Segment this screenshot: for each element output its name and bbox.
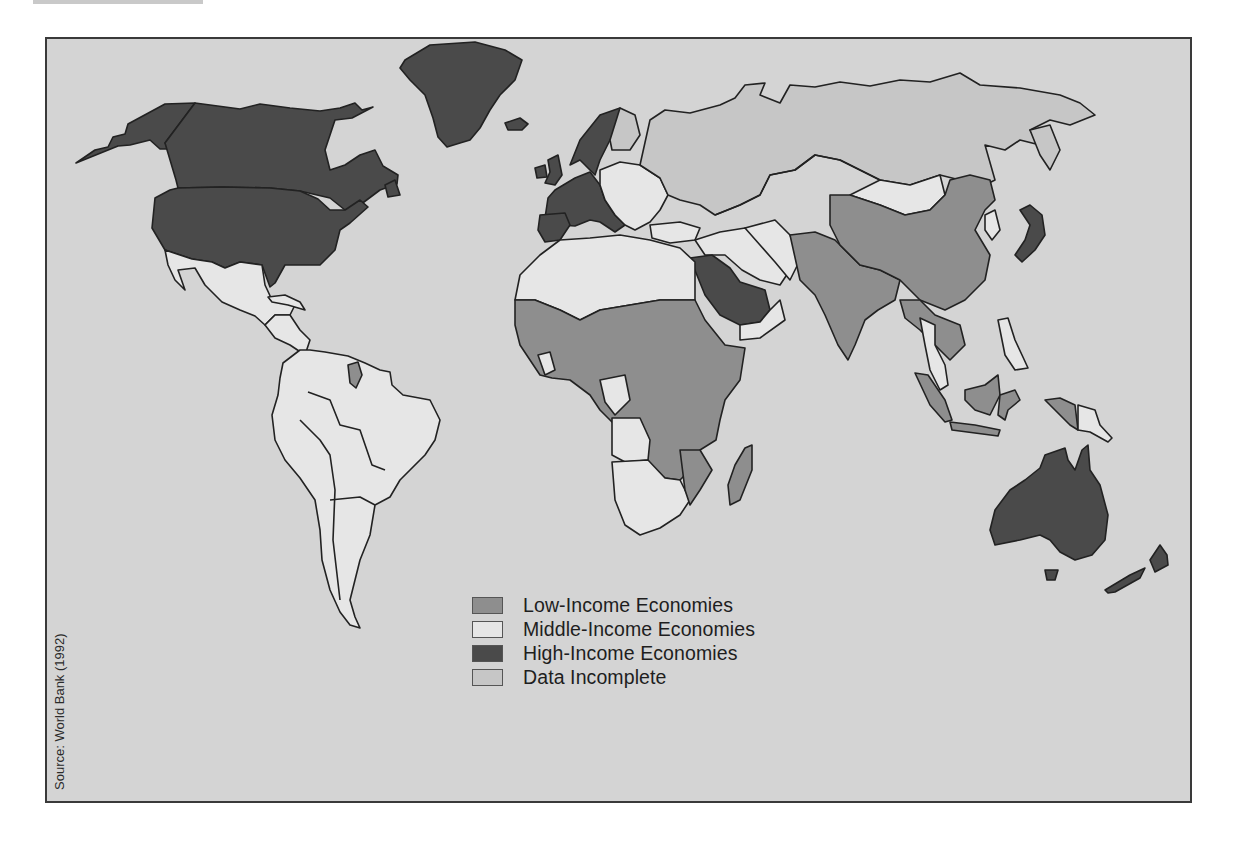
region-new-zealand xyxy=(1105,545,1168,593)
legend-label: Middle-Income Economies xyxy=(523,618,755,641)
source-caption: Source: World Bank (1992) xyxy=(52,633,67,790)
region-australia xyxy=(990,445,1108,560)
region-japan xyxy=(1015,205,1045,262)
region-philippines xyxy=(998,318,1028,370)
legend-item-low-income: Low-Income Economies xyxy=(472,593,755,617)
legend-swatch-low xyxy=(472,597,503,614)
legend-swatch-middle xyxy=(472,621,503,638)
legend-label: High-Income Economies xyxy=(523,642,738,665)
region-central-america xyxy=(265,315,310,355)
world-income-map xyxy=(0,0,1238,845)
legend-label: Data Incomplete xyxy=(523,666,667,689)
region-sulawesi xyxy=(998,390,1020,420)
region-korea xyxy=(985,210,1000,240)
region-borneo xyxy=(965,375,1000,415)
region-tasmania xyxy=(1045,570,1058,580)
region-greenland xyxy=(400,42,522,147)
legend-swatch-high xyxy=(472,645,503,662)
legend-item-high-income: High-Income Economies xyxy=(472,641,755,665)
region-papua-new-guinea xyxy=(1078,405,1112,442)
region-iceland xyxy=(505,118,528,130)
region-kamchatka xyxy=(1030,125,1060,170)
region-java xyxy=(950,422,1000,436)
region-madagascar xyxy=(728,445,752,505)
region-new-guinea-west xyxy=(1045,398,1078,430)
region-ireland xyxy=(535,165,547,178)
map-legend: Low-Income Economies Middle-Income Econo… xyxy=(472,593,755,689)
region-iberia xyxy=(538,213,570,242)
legend-label: Low-Income Economies xyxy=(523,594,733,617)
region-turkey xyxy=(650,222,700,243)
legend-item-middle-income: Middle-Income Economies xyxy=(472,617,755,641)
legend-item-data-incomplete: Data Incomplete xyxy=(472,665,755,689)
region-uk xyxy=(545,155,562,185)
region-south-america xyxy=(272,350,440,628)
legend-swatch-incomplete xyxy=(472,669,503,686)
